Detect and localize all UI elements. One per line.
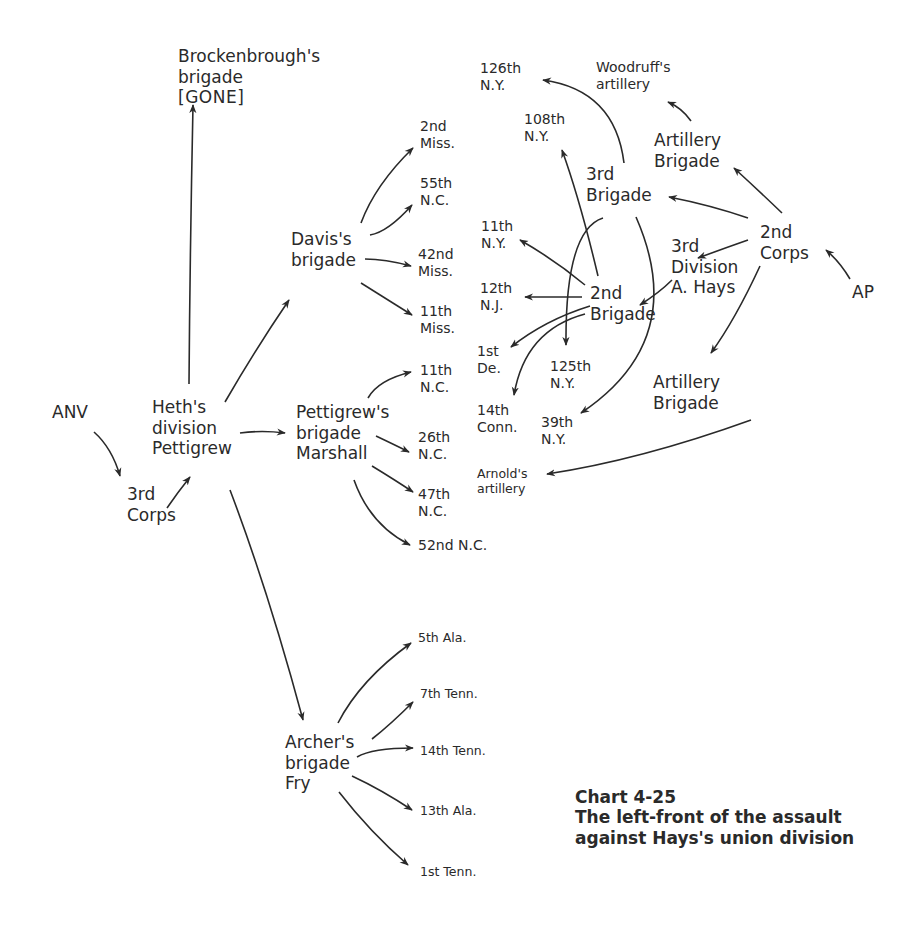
node-archer-brigade: Archer's brigade Fry <box>285 732 354 794</box>
node-pettigrew-brigade: Pettigrew's brigade Marshall <box>296 402 389 464</box>
node-2nd-brigade: 2nd Brigade <box>590 283 656 324</box>
node-davis-brigade: Davis's brigade <box>291 229 356 270</box>
node-2nd-corps: 2nd Corps <box>760 222 809 263</box>
chart-caption: Chart 4-25 The left-front of the assault… <box>575 787 854 848</box>
node-anv: ANV <box>52 402 88 423</box>
node-brockenbrough-status: [GONE] <box>178 87 244 108</box>
edge-heth-archer <box>230 490 303 720</box>
node-52nd-nc: 52nd N.C. <box>418 537 487 554</box>
chart-title: Chart 4-25 <box>575 787 676 807</box>
node-126th-ny: 126th N.Y. <box>480 60 521 94</box>
node-108th-ny: 108th N.Y. <box>524 111 565 145</box>
chart-subtitle-line2: against Hays's union division <box>575 828 854 848</box>
edge-heth-davis <box>225 300 289 402</box>
node-11th-miss: 11th Miss. <box>420 303 455 337</box>
node-5th-ala: 5th Ala. <box>418 630 466 645</box>
node-1st-de: 1st De. <box>477 343 501 377</box>
node-heth-division: Heth's division Pettigrew <box>152 397 232 459</box>
node-woodruff-artillery: Woodruff's artillery <box>596 59 670 93</box>
node-12th-nj: 12th N.J. <box>480 280 512 314</box>
edge-heth-brockenbrough <box>189 105 193 384</box>
node-11th-nc: 11th N.C. <box>420 362 452 396</box>
node-artillery-brigade-top: Artillery Brigade <box>654 130 721 171</box>
node-39th-ny: 39th N.Y. <box>541 414 573 448</box>
chart-subtitle-line1: The left-front of the assault <box>575 807 842 827</box>
node-2nd-miss: 2nd Miss. <box>420 118 455 152</box>
node-7th-tenn: 7th Tenn. <box>420 686 478 701</box>
node-3rd-corps: 3rd Corps <box>127 484 176 525</box>
node-42nd-miss: 42nd Miss. <box>418 246 454 280</box>
node-47th-nc: 47th N.C. <box>418 486 450 520</box>
node-artillery-brigade-bottom: Artillery Brigade <box>653 372 720 413</box>
node-14th-tenn: 14th Tenn. <box>420 743 486 758</box>
node-13th-ala: 13th Ala. <box>420 803 476 818</box>
node-125th-ny: 125th N.Y. <box>550 358 591 392</box>
node-55th-nc: 55th N.C. <box>420 175 452 209</box>
node-3rd-division: 3rd Division A. Hays <box>671 236 738 298</box>
node-14th-conn: 14th Conn. <box>477 402 518 436</box>
edge-anv-3rd-corps <box>94 432 120 476</box>
node-11th-ny: 11th N.Y. <box>481 218 513 252</box>
edge-heth-pettigrew <box>240 432 285 434</box>
node-1st-tenn: 1st Tenn. <box>420 864 476 879</box>
node-arnold-artillery: Arnold's artillery <box>477 466 527 497</box>
node-ap: AP <box>852 282 874 303</box>
node-26th-nc: 26th N.C. <box>418 429 450 463</box>
node-3rd-brigade: 3rd Brigade <box>586 164 652 205</box>
node-brockenbrough-brigade: Brockenbrough's brigade <box>178 46 320 87</box>
